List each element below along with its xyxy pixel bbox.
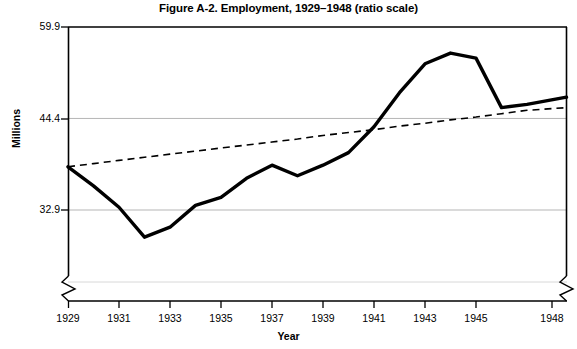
figure-a2-employment-chart: Figure A-2. Employment, 1929–1948 (ratio… (0, 0, 577, 349)
trend-line-series (68, 108, 567, 167)
x-axis-ticks (69, 301, 553, 308)
x-axis-break-icon (560, 276, 573, 301)
y-axis-ticks (61, 27, 68, 210)
y-axis-break-icon (62, 276, 75, 301)
gridlines (68, 118, 567, 282)
chart-plot-area (0, 0, 577, 349)
plot-frame (62, 27, 573, 301)
